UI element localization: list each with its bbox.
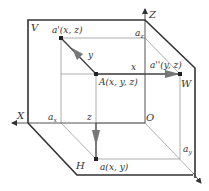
frame-top [28, 20, 195, 178]
distance-x-label: x [131, 62, 136, 72]
point-A [94, 72, 98, 76]
ay-label: ay [183, 144, 192, 156]
point-A-label: A(x, y, z) [98, 77, 138, 87]
line-ax-to-a [61, 123, 96, 159]
point-a-top-label: a(x, y) [100, 162, 129, 172]
x-axis-label: X [16, 110, 25, 121]
arrow-z [92, 130, 100, 146]
az-label: az [135, 28, 144, 39]
point-a-front-label: a'(x, z) [52, 25, 83, 35]
ax-label: ax [48, 112, 57, 123]
plane-h-label: H [75, 160, 85, 171]
distance-y-label: y [87, 50, 94, 60]
distance-z-label: z [86, 112, 92, 122]
plane-frame [28, 20, 195, 178]
projection-diagram: V W H Z X O a'(x, z) A(x, y, z) a''(y, z… [0, 0, 209, 191]
plane-v-label: V [31, 22, 40, 33]
point-a-side-label: a''(y, z) [150, 60, 182, 70]
axes [12, 9, 201, 183]
z-axis-label: Z [148, 9, 157, 20]
origin-label: O [146, 112, 154, 123]
point-a-top [94, 157, 98, 161]
plane-w-label: W [181, 78, 192, 89]
point-a-side [178, 72, 182, 76]
point-a-front [59, 36, 63, 40]
